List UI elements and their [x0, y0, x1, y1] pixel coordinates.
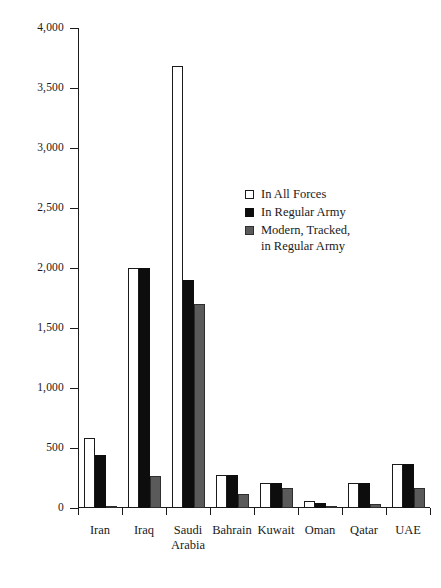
y-axis-tick-label-wrap: 1,000	[0, 382, 64, 394]
y-axis-tick-label: 0	[58, 502, 64, 514]
y-axis-tick-label: 2,000	[37, 262, 64, 274]
x-axis-category-label-line: Qatar	[350, 523, 378, 537]
y-axis-tick-label: 1,000	[37, 382, 64, 394]
y-axis-tick-label: 1,500	[37, 322, 64, 334]
y-axis-tick-label-wrap: 2,000	[0, 262, 64, 274]
bar	[271, 483, 282, 508]
bar	[194, 304, 205, 508]
legend-swatch-gray-square	[245, 226, 254, 235]
bar	[348, 483, 359, 508]
bar-group	[216, 28, 249, 508]
y-axis-tick-label: 500	[46, 442, 64, 454]
legend-label-line: Modern, Tracked,	[261, 223, 350, 237]
x-axis-category-label-line: Oman	[305, 523, 336, 537]
bar-group	[260, 28, 293, 508]
bar-group	[172, 28, 205, 508]
bar-group	[84, 28, 117, 508]
legend-item: In Regular Army	[245, 204, 350, 220]
bar	[238, 494, 249, 508]
bar-group	[128, 28, 161, 508]
bar	[403, 464, 414, 508]
y-axis-tick-label-wrap: 0	[0, 502, 64, 514]
y-axis-tick-label-wrap: 4,000	[0, 22, 64, 34]
x-axis-tick	[254, 508, 255, 515]
x-axis-tick	[210, 508, 211, 515]
bar	[304, 501, 315, 508]
legend-item: In All Forces	[245, 186, 350, 202]
bar	[282, 488, 293, 508]
y-axis-tick-label: 4,000	[37, 22, 64, 34]
y-axis-tick-label: 3,000	[37, 142, 64, 154]
bar	[150, 476, 161, 508]
bar	[414, 488, 425, 508]
y-axis-tick-label-wrap: 3,500	[0, 82, 64, 94]
bar	[216, 475, 227, 508]
bar-group	[392, 28, 425, 508]
legend-item: Modern, Tracked,in Regular Army	[245, 222, 350, 254]
x-axis-category-label-line: Arabia	[156, 538, 220, 553]
y-axis-tick-label-wrap: 500	[0, 442, 64, 454]
x-axis-tick	[166, 508, 167, 515]
bar	[392, 464, 403, 508]
bar	[326, 506, 337, 508]
x-axis-category-label: UAE	[376, 523, 440, 538]
bar	[260, 483, 271, 508]
legend-label: In All Forces	[261, 186, 326, 202]
legend-swatch-black-square	[245, 208, 254, 217]
x-axis-category-label-line: UAE	[395, 523, 421, 537]
y-axis-tick-label: 3,500	[37, 82, 64, 94]
y-axis-tick-label: 2,500	[37, 202, 64, 214]
x-axis-category-label-line: Saudi	[174, 523, 202, 537]
x-axis-category-label-line: Iran	[90, 523, 110, 537]
x-axis-category-label-line: Iraq	[134, 523, 154, 537]
x-axis-tick	[122, 508, 123, 515]
legend-label-line: in Regular Army	[261, 238, 350, 254]
bar	[172, 66, 183, 508]
bar	[128, 268, 139, 508]
y-axis-tick-label-wrap: 2,500	[0, 202, 64, 214]
bar	[95, 455, 106, 508]
bar	[84, 438, 95, 508]
x-axis-tick	[430, 508, 431, 515]
bar	[315, 503, 326, 508]
legend-label-line: In Regular Army	[261, 205, 346, 219]
legend-label: Modern, Tracked,in Regular Army	[261, 222, 350, 254]
bar-group	[348, 28, 381, 508]
bar	[139, 268, 150, 508]
chart-legend: In All ForcesIn Regular ArmyModern, Trac…	[245, 186, 350, 256]
x-axis-tick	[78, 508, 79, 515]
legend-label: In Regular Army	[261, 204, 346, 220]
bar	[370, 504, 381, 508]
x-axis-tick	[298, 508, 299, 515]
bar	[359, 483, 370, 508]
y-axis-tick-label-wrap: 3,000	[0, 142, 64, 154]
legend-label-line: In All Forces	[261, 187, 326, 201]
plot-area	[78, 28, 430, 508]
x-axis-tick	[342, 508, 343, 515]
bar	[227, 475, 238, 508]
legend-swatch-white-square	[245, 190, 254, 199]
bar	[106, 506, 117, 508]
bar-group	[304, 28, 337, 508]
y-axis-tick-label-wrap: 1,500	[0, 322, 64, 334]
x-axis-tick	[386, 508, 387, 515]
bar	[183, 280, 194, 508]
bar-chart: 05001,0001,5002,0002,5003,0003,5004,000 …	[0, 0, 441, 588]
